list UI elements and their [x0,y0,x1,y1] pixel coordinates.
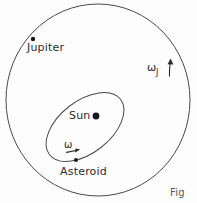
jupiter-label: Jupiter [27,42,64,53]
orbital-diagram-figure: Jupiter Sun Asteroid ωJ ω Fig [0,0,197,203]
sun-label: Sun [69,110,91,121]
omega-jupiter-symbol: ω [147,61,156,74]
omega-asteroid-label: ω [64,140,73,150]
asteroid-marker-dot [74,158,78,162]
sun-marker-dot [93,113,100,120]
asteroid-orbit-path [34,79,137,175]
figure-caption: Fig [170,188,185,198]
omega-jupiter-subscript: J [156,68,159,77]
omega-jupiter-label: ωJ [147,62,159,76]
omega-jupiter-direction-arrow-icon [168,59,174,76]
asteroid-label: Asteroid [60,166,107,177]
